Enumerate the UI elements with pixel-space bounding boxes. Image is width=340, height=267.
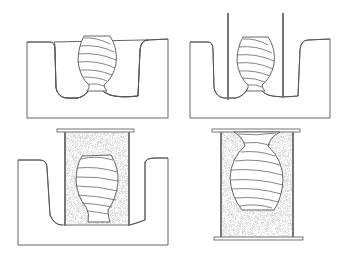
flask-bottom-plate	[214, 237, 303, 240]
process-diagram	[0, 0, 340, 267]
panel-4	[212, 129, 303, 240]
panel-2	[190, 13, 330, 118]
flask-top-plate	[57, 129, 134, 132]
panel-3	[18, 129, 168, 245]
panel-1	[27, 36, 168, 118]
vase-pattern	[237, 37, 274, 91]
vase-pattern	[78, 36, 116, 91]
